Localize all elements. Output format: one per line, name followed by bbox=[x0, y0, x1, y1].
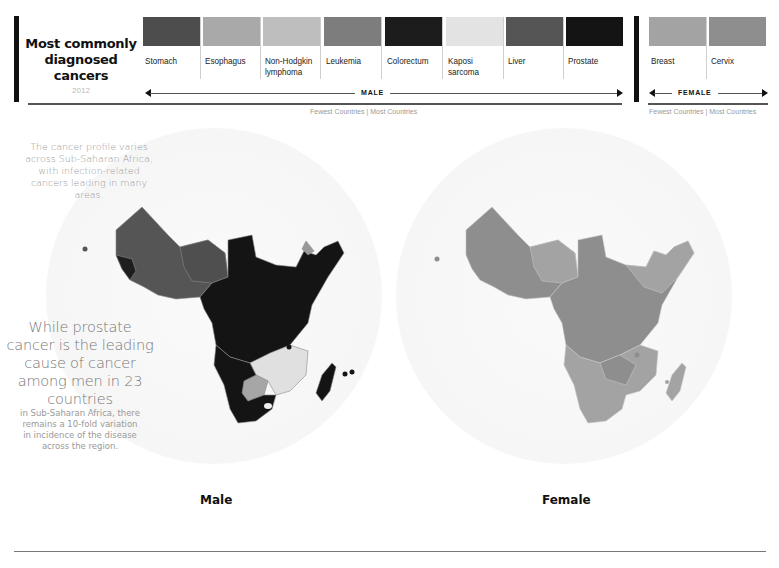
legend-label: Liver bbox=[508, 56, 526, 67]
legend-label: Esophagus bbox=[205, 56, 246, 67]
legend-item-colorectum[interactable]: Colorectum bbox=[385, 17, 443, 79]
male-scale-note: Fewest Countries | Most Countries bbox=[310, 108, 417, 115]
legend-item-breast[interactable]: Breast bbox=[649, 17, 707, 79]
legend-divider bbox=[706, 17, 707, 79]
male-baseline bbox=[28, 103, 622, 105]
female-axis-label: FEMALE bbox=[672, 89, 718, 96]
page-title: Most commonly diagnosed cancers bbox=[22, 36, 140, 84]
header-accent-bar bbox=[14, 16, 19, 102]
year-label: 2012 bbox=[22, 86, 140, 95]
legend-label: Colorectum bbox=[387, 56, 428, 67]
legend-swatch bbox=[263, 17, 320, 46]
legend-item-non-hodgkin-lymphoma[interactable]: Non-Hodgkin lymphoma bbox=[263, 17, 321, 79]
legend-swatch bbox=[385, 17, 442, 46]
legend-item-liver[interactable]: Liver bbox=[506, 17, 564, 79]
female-accent-bar bbox=[634, 16, 639, 102]
legend-divider bbox=[563, 17, 564, 79]
title-block: Most commonly diagnosed cancers 2012 bbox=[22, 36, 140, 95]
legend-swatch bbox=[506, 17, 563, 46]
footer-divider bbox=[14, 551, 766, 552]
male-axis-label: MALE bbox=[355, 89, 390, 96]
legend-divider bbox=[381, 17, 382, 79]
female-map-title: Female bbox=[542, 493, 591, 507]
legend-divider bbox=[260, 17, 261, 79]
intro-text: The cancer profile varies across Sub-Sah… bbox=[24, 141, 154, 201]
legend-swatch bbox=[566, 17, 623, 46]
female-baseline bbox=[648, 103, 768, 105]
legend-swatch bbox=[143, 17, 200, 46]
legend-item-cervix[interactable]: Cervix bbox=[709, 17, 767, 79]
legend-item-stomach[interactable]: Stomach bbox=[143, 17, 201, 79]
callout-body: in Sub-Saharan Africa, there remains a 1… bbox=[18, 408, 142, 452]
legend-item-esophagus[interactable]: Esophagus bbox=[203, 17, 261, 79]
legend-item-kaposi-sarcoma[interactable]: Kaposi sarcoma bbox=[446, 17, 504, 79]
legend-label: Cervix bbox=[711, 56, 734, 67]
legend-label: Kaposi sarcoma bbox=[448, 56, 493, 78]
arrow-right-icon bbox=[762, 89, 768, 97]
male-map-title: Male bbox=[200, 493, 232, 507]
legend-swatch bbox=[649, 17, 706, 46]
legend-divider bbox=[442, 17, 443, 79]
legend-swatch bbox=[203, 17, 260, 46]
legend-divider bbox=[503, 17, 504, 79]
legend-label: Stomach bbox=[145, 56, 177, 67]
callout-headline: While prostate cancer is the leading cau… bbox=[6, 318, 154, 408]
legend-item-leukemia[interactable]: Leukemia bbox=[324, 17, 382, 79]
female-scale-note: Fewest Countries | Most Countries bbox=[649, 108, 756, 115]
arrow-right-icon bbox=[617, 89, 623, 97]
legend-swatch bbox=[324, 17, 381, 46]
legend-swatch bbox=[709, 17, 766, 46]
legend-label: Prostate bbox=[568, 56, 598, 67]
legend-item-prostate[interactable]: Prostate bbox=[566, 17, 624, 79]
legend-label: Breast bbox=[651, 56, 674, 67]
female-africa-map[interactable] bbox=[430, 195, 710, 425]
legend-label: Leukemia bbox=[326, 56, 361, 67]
legend-label: Non-Hodgkin lymphoma bbox=[265, 56, 321, 78]
legend-divider bbox=[200, 17, 201, 79]
legend-swatch bbox=[446, 17, 503, 46]
